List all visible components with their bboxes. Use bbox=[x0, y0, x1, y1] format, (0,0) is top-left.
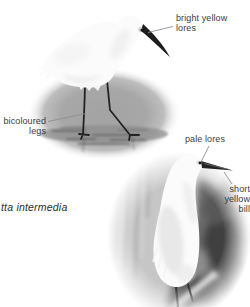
callout-line: lores bbox=[176, 23, 227, 33]
callout-line: yellow bbox=[190, 194, 250, 204]
callout-bright-yellow-lores: bright yellow lores bbox=[176, 13, 227, 33]
callout-line: pale lores bbox=[185, 134, 225, 144]
callout-line: short bbox=[190, 184, 250, 194]
egret-eye bbox=[141, 29, 144, 32]
callout-bicoloured-legs: bicoloured legs bbox=[0, 116, 46, 136]
callout-short-yellow-bill: short yellow bill bbox=[190, 184, 250, 214]
species-name: tta intermedia bbox=[1, 201, 67, 213]
callout-line: bicoloured bbox=[0, 116, 46, 126]
egret-bill bbox=[141, 24, 170, 57]
field-guide-page: bright yellow lores bicoloured legs pale… bbox=[0, 0, 250, 307]
bottom-egret-photo bbox=[105, 148, 250, 307]
callout-line: bill bbox=[190, 204, 250, 214]
callout-pale-lores: pale lores bbox=[185, 134, 225, 144]
bottom-egret-illustration bbox=[105, 148, 250, 307]
top-egret-illustration bbox=[22, 4, 182, 166]
callout-line: bright yellow bbox=[176, 13, 227, 23]
egret2-eye bbox=[199, 162, 202, 165]
top-egret-photo bbox=[22, 4, 182, 166]
callout-line: legs bbox=[0, 126, 46, 136]
